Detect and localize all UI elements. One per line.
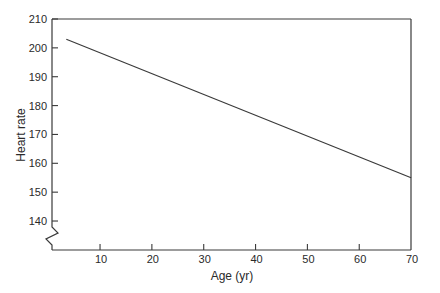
heart-rate-chart: 140150160170180190200210 10203040506070 …: [0, 0, 440, 293]
heart-rate-line: [66, 39, 411, 178]
y-ticks: 140150160170180190200210: [29, 13, 58, 227]
y-tick-label: 200: [29, 42, 47, 54]
x-tick-label: 40: [250, 253, 262, 265]
x-ticks: 10203040506070: [95, 244, 418, 265]
x-tick-label: 30: [199, 253, 211, 265]
x-tick-label: 50: [302, 253, 314, 265]
x-tick-label: 60: [354, 253, 366, 265]
y-tick-label: 210: [29, 13, 47, 25]
x-tick-label: 70: [406, 253, 418, 265]
y-tick-label: 150: [29, 186, 47, 198]
x-tick-label: 20: [147, 253, 159, 265]
x-axis-label: Age (yr): [211, 269, 254, 283]
y-tick-label: 170: [29, 128, 47, 140]
x-tick-label: 10: [95, 253, 107, 265]
y-tick-label: 190: [29, 71, 47, 83]
y-tick-label: 140: [29, 215, 47, 227]
y-tick-label: 160: [29, 157, 47, 169]
y-tick-label: 180: [29, 100, 47, 112]
y-axis-label: Heart rate: [14, 108, 28, 162]
